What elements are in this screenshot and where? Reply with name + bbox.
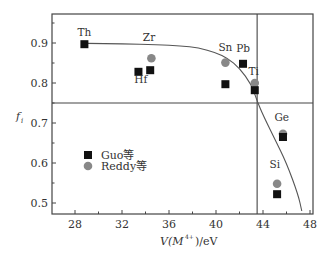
ylabel-sub: i xyxy=(21,117,23,125)
guo-point-ti xyxy=(251,86,259,94)
reddy-point-si xyxy=(273,180,282,189)
xlabel-sup: 4+ xyxy=(185,233,194,240)
y-axis-title: f i xyxy=(15,110,23,125)
x-axis: 283236404448 xyxy=(68,210,317,231)
guo-point-zr xyxy=(146,66,154,74)
reddy-point-sn xyxy=(221,58,230,67)
legend-circle-icon xyxy=(84,162,93,171)
xlabel-main: V(M xyxy=(160,235,184,248)
element-label-th: Th xyxy=(78,26,92,38)
x-axis-title: V(M 4+ )/eV xyxy=(160,233,219,248)
x-tick-label: 36 xyxy=(162,218,176,231)
element-label-si: Si xyxy=(269,158,280,170)
trend-curve xyxy=(87,43,302,211)
y-tick-label: 0.5 xyxy=(31,197,49,210)
legend-reddy-label: Reddy等 xyxy=(101,159,147,173)
reddy-point-zr xyxy=(147,54,156,63)
data-points xyxy=(80,40,287,198)
element-label-zr: Zr xyxy=(143,31,156,43)
element-label-ti: Ti xyxy=(248,65,259,77)
y-tick-label: 0.6 xyxy=(31,157,49,170)
reddy-point-ti xyxy=(250,79,259,88)
element-label-ge: Ge xyxy=(274,111,289,123)
fitted-curve xyxy=(87,43,302,211)
guo-point-sn xyxy=(221,80,229,88)
legend-square-icon xyxy=(84,151,92,159)
x-tick-label: 32 xyxy=(115,218,129,231)
y-tick-label: 0.7 xyxy=(31,117,49,130)
x-tick-label: 40 xyxy=(209,218,223,231)
scatter-chart: 283236404448 0.50.60.70.80.9 ThZrHfSnPbT… xyxy=(0,0,328,260)
guo-point-th xyxy=(80,40,88,48)
x-tick-label: 48 xyxy=(303,218,317,231)
xlabel-tail: )/eV xyxy=(195,235,219,248)
legend: Guo等 Reddy等 xyxy=(84,148,147,173)
y-tick-label: 0.8 xyxy=(31,77,49,90)
element-label-sn: Sn xyxy=(218,41,232,53)
guo-point-si xyxy=(273,190,281,198)
element-label-hf: Hf xyxy=(134,73,148,85)
guo-point-pb xyxy=(239,60,247,68)
x-tick-label: 44 xyxy=(256,218,270,231)
y-tick-label: 0.9 xyxy=(31,37,49,50)
element-label-pb: Pb xyxy=(236,42,250,54)
guo-point-ge xyxy=(279,133,287,141)
x-tick-label: 28 xyxy=(68,218,82,231)
